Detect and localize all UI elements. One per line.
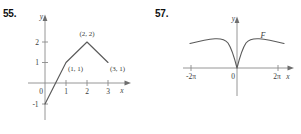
y-tick-label-2: 2 (35, 38, 39, 47)
y-tick-label-neg1: -1 (32, 100, 38, 109)
figure-57: 57. -2π 2π 0 y x F (150, 0, 301, 134)
x-axis-arrow-icon-55 (125, 81, 132, 86)
y-axis-arrow-icon-57 (235, 17, 240, 24)
x-tick-label-1: 1 (64, 87, 68, 96)
y-axis-label-55: y (39, 12, 44, 21)
x-axis-label-57: x (285, 72, 290, 81)
data-series-piecewise-linear (45, 42, 108, 104)
figure-55: 55. 0 1 2 3 2 1 -1 y x (2, 2) (1, 1) (3,… (0, 0, 150, 134)
point-label-3-1: (3, 1) (110, 65, 126, 73)
x-axis-arrow-icon-57 (288, 66, 295, 71)
curve-label-F: F (260, 31, 266, 40)
plot-area-57: -2π 2π 0 y x F (150, 0, 301, 134)
origin-label-55: 0 (39, 87, 43, 96)
point-label-2-2: (2, 2) (79, 30, 95, 38)
y-axis-label-57: y (231, 14, 236, 23)
x-tick-label-neg-2pi: -2π (186, 72, 196, 81)
x-axis-label-55: x (119, 86, 124, 95)
origin-label-57: 0 (231, 72, 235, 81)
x-tick-label-2pi: 2π (273, 72, 281, 81)
x-tick-label-3: 3 (106, 87, 110, 96)
plot-area-55: 0 1 2 3 2 1 -1 y x (2, 2) (1, 1) (3, 1) (0, 0, 150, 134)
y-axis-arrow-icon-55 (43, 15, 48, 22)
x-tick-label-2: 2 (85, 87, 89, 96)
y-tick-label-1: 1 (35, 58, 39, 67)
point-label-1-1: (1, 1) (68, 65, 84, 73)
